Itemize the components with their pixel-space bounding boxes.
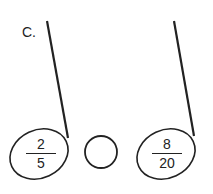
problem-label: C. [22,24,36,40]
comparison-answer-slot[interactable] [85,136,117,168]
right-fraction: 8 20 [152,136,182,171]
left-denominator: 5 [26,154,56,171]
left-numerator: 2 [26,136,56,154]
right-numerator: 8 [152,136,182,154]
left-fraction: 2 5 [26,136,56,171]
right-denominator: 20 [152,154,182,171]
